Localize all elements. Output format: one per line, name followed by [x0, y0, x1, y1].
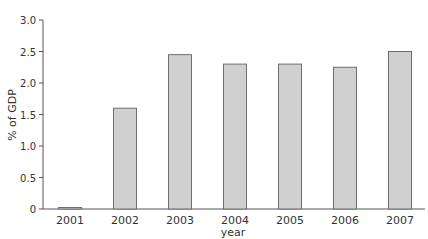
x-tick-label: 2005: [276, 214, 304, 227]
bar-2005: [279, 64, 302, 209]
bar-2004: [224, 64, 247, 209]
bar-2007: [389, 52, 412, 210]
y-tick-label: 0.5: [20, 173, 36, 184]
y-tick-label: 2.0: [20, 78, 36, 89]
y-tick-label: 0: [30, 204, 36, 215]
bar-2001: [59, 208, 82, 210]
x-tick-label: 2007: [386, 214, 414, 227]
chart-canvas: 00.51.01.52.02.53.0 20012002200320042005…: [0, 0, 428, 239]
bar-2006: [334, 67, 357, 209]
bar-2003: [169, 55, 192, 209]
y-axis-label: % of GDP: [6, 89, 19, 141]
x-tick-label: 2006: [331, 214, 359, 227]
y-axis: 00.51.01.52.02.53.0: [20, 15, 43, 215]
bars-group: [59, 52, 412, 210]
bar-2002: [114, 108, 137, 209]
bar-chart: 00.51.01.52.02.53.0 20012002200320042005…: [0, 0, 428, 239]
y-tick-label: 1.0: [20, 141, 36, 152]
x-axis-label: year: [221, 226, 246, 239]
x-axis: 2001200220032004200520062007: [43, 209, 425, 227]
x-tick-label: 2003: [166, 214, 194, 227]
y-tick-label: 3.0: [20, 15, 36, 26]
x-tick-label: 2001: [56, 214, 84, 227]
y-tick-label: 2.5: [20, 47, 36, 58]
y-tick-label: 1.5: [20, 110, 36, 121]
x-tick-label: 2002: [111, 214, 139, 227]
